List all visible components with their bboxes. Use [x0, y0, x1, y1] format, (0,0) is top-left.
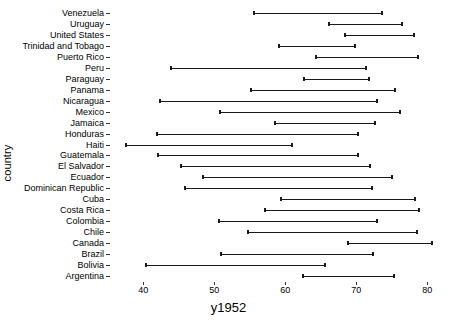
range-start-marker	[347, 241, 349, 245]
range-segment-line	[248, 232, 418, 233]
range-segment-row	[115, 249, 452, 260]
chart-root: country VenezuelaUruguayUnited StatesTri…	[0, 0, 457, 326]
y-axis-tick-mark	[106, 155, 110, 156]
range-segment-row	[115, 96, 452, 107]
range-segment-line	[160, 101, 377, 102]
range-segment-row	[115, 260, 452, 271]
range-start-marker	[125, 143, 127, 147]
range-end-marker	[376, 219, 378, 223]
range-start-marker	[184, 186, 186, 190]
y-axis-tick-mark	[106, 35, 110, 36]
y-axis-tick-mark	[106, 188, 110, 189]
y-axis-tick-mark	[106, 24, 110, 25]
y-axis-tick-label: Costa Rica	[60, 205, 104, 216]
y-axis-tick-label: Haiti	[86, 140, 104, 151]
y-axis-tick-mark	[106, 166, 110, 167]
y-axis-tick-mark	[106, 232, 110, 233]
range-segment-row	[115, 238, 452, 249]
y-axis-tick-label: Dominican Republic	[24, 183, 104, 194]
y-axis-tick-label: Venezuela	[62, 8, 104, 19]
range-segment-line	[146, 265, 325, 266]
y-axis-tick-mark	[106, 68, 110, 69]
y-axis-tick-mark	[106, 123, 110, 124]
range-segment-line	[348, 243, 432, 244]
range-segment-line	[251, 90, 395, 91]
range-segment-row	[115, 129, 452, 140]
range-segment-line	[219, 221, 377, 222]
y-axis-tick-mark	[106, 134, 110, 135]
y-axis-tick-mark	[106, 210, 110, 211]
y-axis-tick-label: El Salvador	[58, 161, 104, 172]
range-segment-row	[115, 140, 452, 151]
y-axis-tick-label: Mexico	[75, 107, 104, 118]
y-axis-tick-mark	[106, 112, 110, 113]
range-end-marker	[393, 274, 395, 278]
y-axis-tick-label: Honduras	[65, 129, 104, 140]
range-segment-line	[254, 13, 382, 14]
y-axis-tick-label: Puerto Rico	[57, 52, 104, 63]
y-axis-labels: VenezuelaUruguayUnited StatesTrinidad an…	[0, 8, 112, 282]
y-axis-tick-mark	[106, 13, 110, 14]
range-end-marker	[291, 143, 293, 147]
range-segment-row	[115, 194, 452, 205]
x-axis-title: y1952	[0, 300, 457, 315]
range-end-marker	[374, 121, 376, 125]
range-segment-row	[115, 41, 452, 52]
y-axis-tick-label: Ecuador	[70, 172, 104, 183]
range-segment-row	[115, 118, 452, 129]
range-end-marker	[417, 55, 419, 59]
range-end-marker	[381, 11, 383, 15]
range-segment-row	[115, 107, 452, 118]
y-axis-tick-label: Peru	[85, 63, 104, 74]
range-start-marker	[157, 153, 159, 157]
y-axis-tick-mark	[106, 145, 110, 146]
y-axis-tick-label: Cuba	[82, 194, 104, 205]
range-end-marker	[431, 241, 433, 245]
range-start-marker	[274, 121, 276, 125]
range-segment-line	[221, 254, 374, 255]
y-axis-tick-mark	[106, 243, 110, 244]
range-end-marker	[418, 208, 420, 212]
x-axis-tick-label: 60	[280, 285, 290, 295]
range-segment-row	[115, 216, 452, 227]
range-end-marker	[399, 110, 401, 114]
y-axis-tick-label: Chile	[83, 227, 104, 238]
range-segment-line	[157, 134, 358, 135]
range-segment-line	[281, 199, 415, 200]
y-axis-tick-label: Nicaragua	[63, 96, 104, 107]
range-start-marker	[219, 110, 221, 114]
range-start-marker	[303, 77, 305, 81]
range-end-marker	[394, 88, 396, 92]
x-axis-tick-label: 70	[351, 285, 361, 295]
range-segment-line	[203, 177, 392, 178]
range-segment-line	[279, 46, 355, 47]
y-axis-tick-label: Trinidad and Tobago	[22, 41, 104, 52]
range-segment-row	[115, 271, 452, 282]
range-segment-row	[115, 172, 452, 183]
range-end-marker	[376, 99, 378, 103]
range-segment-line	[345, 35, 415, 36]
range-start-marker	[328, 22, 330, 26]
range-segment-row	[115, 19, 452, 30]
range-start-marker	[315, 55, 317, 59]
y-axis-tick-label: Guatemala	[60, 150, 104, 161]
plot-panel	[115, 8, 452, 282]
range-segment-row	[115, 8, 452, 19]
range-end-marker	[401, 22, 403, 26]
y-axis-tick-label: Argentina	[65, 271, 104, 282]
range-start-marker	[180, 164, 182, 168]
x-axis-tick-label: 50	[209, 285, 219, 295]
range-segment-line	[303, 276, 394, 277]
y-axis-tick-label: Colombia	[66, 216, 104, 227]
range-start-marker	[202, 175, 204, 179]
range-end-marker	[416, 230, 418, 234]
y-axis-tick-mark	[106, 265, 110, 266]
y-axis-tick-mark	[106, 177, 110, 178]
range-segment-line	[220, 112, 400, 113]
range-start-marker	[302, 274, 304, 278]
range-end-marker	[365, 66, 367, 70]
range-start-marker	[250, 88, 252, 92]
y-axis-tick-label: Canada	[72, 238, 104, 249]
range-segment-row	[115, 74, 452, 85]
range-segment-line	[158, 155, 359, 156]
